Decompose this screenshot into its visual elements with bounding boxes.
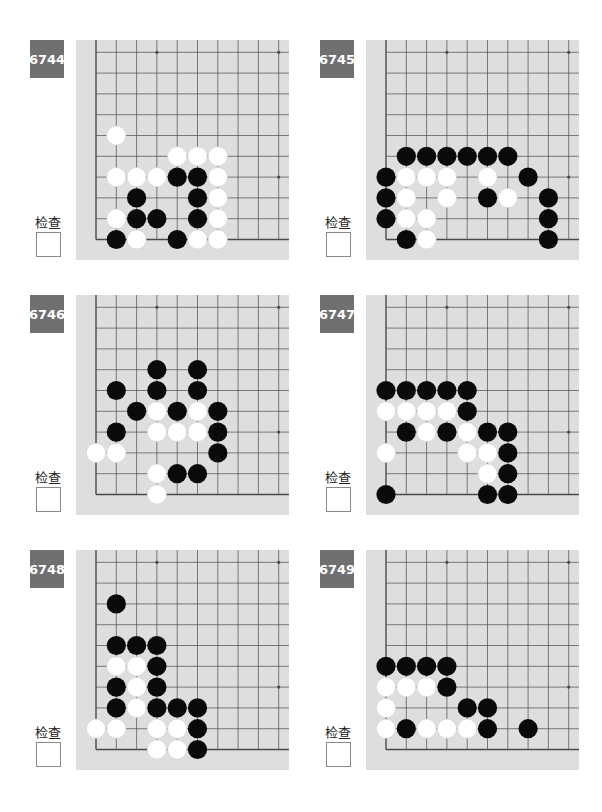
check-checkbox[interactable] <box>36 742 61 767</box>
check-checkbox[interactable] <box>36 487 61 512</box>
white-stone <box>147 402 166 421</box>
black-stone <box>188 188 207 207</box>
problem-6744: 6744 检查 <box>30 40 320 262</box>
black-stone <box>188 168 207 187</box>
go-board <box>76 295 289 515</box>
black-stone <box>519 719 538 738</box>
black-stone <box>498 464 517 483</box>
star-point <box>155 561 158 564</box>
black-stone <box>437 657 456 676</box>
white-stone <box>188 230 207 249</box>
star-point <box>445 306 448 309</box>
problem-number-badge: 6748 <box>30 550 64 588</box>
white-stone <box>498 188 517 207</box>
white-stone <box>208 168 227 187</box>
board-grid <box>76 550 289 770</box>
white-stone <box>188 423 207 442</box>
white-stone <box>376 402 395 421</box>
black-stone <box>168 230 187 249</box>
black-stone <box>458 402 477 421</box>
board-grid <box>366 40 579 260</box>
black-stone <box>498 147 517 166</box>
white-stone <box>458 719 477 738</box>
white-stone <box>147 485 166 504</box>
black-stone <box>539 188 558 207</box>
star-point <box>567 561 570 564</box>
white-stone <box>397 402 416 421</box>
check-checkbox[interactable] <box>326 487 351 512</box>
go-board <box>76 40 289 260</box>
white-stone <box>147 719 166 738</box>
star-point <box>567 431 570 434</box>
white-stone <box>147 740 166 759</box>
black-stone <box>168 464 187 483</box>
black-stone <box>107 678 126 697</box>
problem-number-badge: 6745 <box>320 40 354 78</box>
board-grid <box>366 295 579 515</box>
white-stone <box>376 678 395 697</box>
black-stone <box>437 678 456 697</box>
black-stone <box>478 485 497 504</box>
white-stone <box>188 147 207 166</box>
go-board <box>366 40 579 260</box>
black-stone <box>498 485 517 504</box>
white-stone <box>107 126 126 145</box>
black-stone <box>437 381 456 400</box>
black-stone <box>188 381 207 400</box>
black-stone <box>147 360 166 379</box>
black-stone <box>147 678 166 697</box>
white-stone <box>168 740 187 759</box>
white-stone <box>127 678 146 697</box>
go-board <box>366 295 579 515</box>
white-stone <box>376 719 395 738</box>
black-stone <box>417 381 436 400</box>
check-label: 检查 <box>325 722 351 741</box>
white-stone <box>147 423 166 442</box>
white-stone <box>168 147 187 166</box>
white-stone <box>417 230 436 249</box>
black-stone <box>188 698 207 717</box>
white-stone <box>417 678 436 697</box>
white-stone <box>147 464 166 483</box>
black-stone <box>127 636 146 655</box>
black-stone <box>539 209 558 228</box>
check-checkbox[interactable] <box>326 742 351 767</box>
check-label: 检查 <box>35 212 61 231</box>
check-checkbox[interactable] <box>326 232 351 257</box>
go-board <box>366 550 579 770</box>
black-stone <box>417 147 436 166</box>
star-point <box>277 431 280 434</box>
black-stone <box>498 443 517 462</box>
white-stone <box>397 678 416 697</box>
star-point <box>567 306 570 309</box>
black-stone <box>397 423 416 442</box>
white-stone <box>397 209 416 228</box>
white-stone <box>107 657 126 676</box>
board-grid <box>76 40 289 260</box>
star-point <box>567 176 570 179</box>
white-stone <box>86 443 105 462</box>
white-stone <box>458 423 477 442</box>
white-stone <box>437 188 456 207</box>
black-stone <box>458 147 477 166</box>
white-stone <box>478 443 497 462</box>
check-checkbox[interactable] <box>36 232 61 257</box>
white-stone <box>107 719 126 738</box>
star-point <box>567 686 570 689</box>
problem-number-badge: 6749 <box>320 550 354 588</box>
check-label: 检查 <box>325 212 351 231</box>
white-stone <box>107 209 126 228</box>
white-stone <box>478 464 497 483</box>
star-point <box>155 306 158 309</box>
star-point <box>277 176 280 179</box>
black-stone <box>107 230 126 249</box>
star-point <box>277 561 280 564</box>
black-stone <box>498 423 517 442</box>
black-stone <box>147 698 166 717</box>
star-point <box>277 306 280 309</box>
problem-number-badge: 6744 <box>30 40 64 78</box>
go-board <box>76 550 289 770</box>
star-point <box>155 51 158 54</box>
white-stone <box>417 168 436 187</box>
white-stone <box>107 168 126 187</box>
